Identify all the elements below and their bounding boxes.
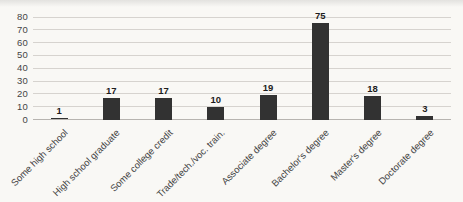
y-axis-tick-label: 0 — [0, 114, 28, 126]
gridline — [33, 68, 451, 69]
bar-value-label: 75 — [305, 10, 335, 22]
y-axis-tick-label: 30 — [0, 75, 28, 87]
scan-artifact-top — [0, 0, 463, 7]
gridline — [33, 29, 451, 30]
y-axis-tick-label: 80 — [0, 11, 28, 23]
bar-value-label: 19 — [253, 82, 283, 94]
gridline — [33, 17, 451, 18]
y-axis-tick-label: 40 — [0, 62, 28, 74]
y-axis-tick-label: 50 — [0, 49, 28, 61]
gridline — [33, 55, 451, 56]
gridline — [33, 81, 451, 82]
bar — [364, 96, 381, 119]
y-axis-tick-label: 60 — [0, 37, 28, 49]
bar — [260, 95, 277, 119]
bar — [416, 116, 433, 120]
bar — [51, 118, 68, 119]
bar — [155, 98, 172, 120]
gridline — [33, 106, 451, 107]
bar-chart: 010203040506070801Some high school17High… — [0, 0, 463, 202]
bar-value-label: 17 — [96, 85, 126, 97]
bar-value-label: 3 — [410, 103, 440, 115]
bar — [207, 107, 224, 120]
bar — [103, 98, 120, 120]
bar-value-label: 17 — [149, 85, 179, 97]
gridline — [33, 42, 451, 43]
bar-value-label: 10 — [201, 94, 231, 106]
y-axis-tick-label: 10 — [0, 101, 28, 113]
bar — [312, 23, 329, 119]
x-axis-line — [33, 119, 451, 120]
y-axis-tick-label: 20 — [0, 88, 28, 100]
bar-value-label: 1 — [44, 105, 74, 117]
y-axis-tick-label: 70 — [0, 24, 28, 36]
bar-value-label: 18 — [358, 83, 388, 95]
